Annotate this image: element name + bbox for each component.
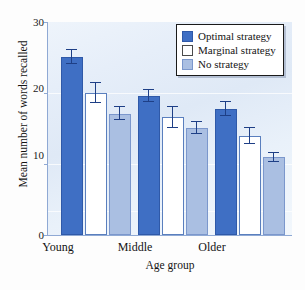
y-axis-title: Mean number of words recalled	[17, 29, 29, 199]
legend: Optimal strategy Marginal strategy No st…	[176, 24, 284, 76]
y-tick-mark-20	[44, 93, 48, 94]
errorcap-bottom-young-optimal	[66, 63, 77, 64]
y-tick-mark-30	[44, 22, 48, 23]
errorbar-older-optimal	[225, 102, 226, 116]
errorcap-top-older-marginal	[244, 127, 255, 128]
legend-swatch-marginal-icon	[182, 45, 193, 56]
errorcap-top-middle-optimal	[143, 89, 154, 90]
errorcap-top-middle-nostrategy	[191, 121, 202, 122]
errorcap-bottom-older-nostrategy	[268, 161, 279, 162]
errorbar-young-marginal	[95, 83, 96, 103]
errorcap-top-young-marginal	[90, 82, 101, 83]
errorcap-bottom-older-marginal	[244, 143, 255, 144]
legend-label-marginal: Marginal strategy	[198, 44, 276, 56]
bar-middle-marginal[interactable]	[162, 117, 184, 235]
errorcap-top-young-optimal	[66, 49, 77, 50]
errorcap-bottom-middle-marginal	[167, 127, 178, 128]
legend-item-optimal[interactable]: Optimal strategy	[182, 29, 276, 43]
legend-label-nostrategy: No strategy	[198, 58, 249, 70]
bar-chart-figure: 30 20 10 0 Mean number of words recalled	[0, 0, 305, 290]
bar-young-optimal[interactable]	[61, 57, 83, 235]
y-tick-label-30: 30	[14, 17, 44, 28]
errorcap-bottom-older-optimal	[220, 115, 231, 116]
errorbar-older-marginal	[249, 128, 250, 144]
legend-item-nostrategy[interactable]: No strategy	[182, 57, 276, 71]
bar-young-marginal[interactable]	[85, 93, 107, 235]
errorcap-bottom-middle-optimal	[143, 101, 154, 102]
legend-swatch-optimal-icon	[182, 31, 193, 42]
x-axis-line	[47, 235, 292, 236]
y-tick-mark-10	[44, 164, 48, 165]
bar-middle-optimal[interactable]	[138, 96, 160, 235]
y-tick-mark-0	[44, 235, 48, 236]
bar-older-marginal[interactable]	[239, 136, 261, 235]
errorcap-top-middle-marginal	[167, 106, 178, 107]
legend-label-optimal: Optimal strategy	[198, 30, 272, 42]
errorcap-top-older-nostrategy	[268, 152, 279, 153]
errorbar-young-optimal	[71, 50, 72, 64]
errorcap-top-older-optimal	[220, 101, 231, 102]
x-axis-title: Age group	[48, 259, 292, 271]
bar-older-nostrategy[interactable]	[263, 157, 285, 235]
bar-group-young	[58, 22, 134, 235]
bar-young-nostrategy[interactable]	[109, 114, 131, 235]
errorbar-middle-marginal	[172, 107, 173, 128]
y-axis-line	[47, 22, 48, 236]
bar-older-optimal[interactable]	[215, 109, 237, 235]
errorcap-bottom-young-nostrategy	[114, 119, 125, 120]
bar-middle-nostrategy[interactable]	[186, 128, 208, 235]
errorcap-top-young-nostrategy	[114, 106, 125, 107]
x-tick-label-older: Older	[167, 240, 257, 255]
legend-item-marginal[interactable]: Marginal strategy	[182, 43, 276, 57]
errorcap-bottom-middle-nostrategy	[191, 133, 202, 134]
legend-swatch-nostrategy-icon	[182, 59, 193, 70]
errorcap-bottom-young-marginal	[90, 102, 101, 103]
